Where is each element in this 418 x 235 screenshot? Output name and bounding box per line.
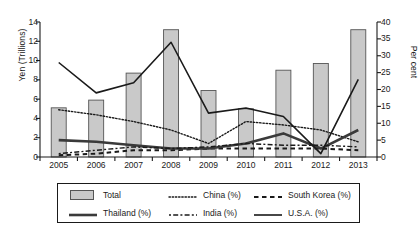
- bar-swatch-icon: [68, 189, 98, 201]
- legend-label: India (%): [203, 208, 237, 218]
- bar-total-2011: [276, 70, 291, 157]
- legend-item-total: Total: [68, 186, 121, 203]
- legend-label: China (%): [203, 190, 241, 200]
- legend-label: Total: [103, 190, 121, 200]
- dual-axis-combo-chart: Yen (Trillions) Per cent 02468101214 051…: [0, 0, 418, 235]
- bar-total-2006: [89, 100, 104, 157]
- legend-item-south-korea: South Korea (%): [253, 186, 351, 203]
- legend-label: Thailand (%): [103, 208, 151, 218]
- legend-item-usa: U.S.A. (%): [253, 204, 328, 221]
- bar-total-2013: [351, 30, 366, 157]
- legend-item-thailand: Thailand (%): [68, 204, 151, 221]
- bar-total-2010: [238, 109, 253, 157]
- thick-line-icon: [68, 207, 98, 219]
- legend-item-india: India (%): [168, 204, 237, 221]
- solid-line-icon: [253, 207, 283, 219]
- dotted-line-icon: [168, 189, 198, 201]
- legend-label: South Korea (%): [288, 190, 351, 200]
- legend-label: U.S.A. (%): [288, 208, 328, 218]
- chart-legend: Total China (%) South Korea (%) Thail: [57, 183, 360, 223]
- legend-item-china: China (%): [168, 186, 241, 203]
- dashed-line-icon: [253, 189, 283, 201]
- bar-total-2005: [51, 108, 66, 157]
- dash-dot-line-icon: [168, 207, 198, 219]
